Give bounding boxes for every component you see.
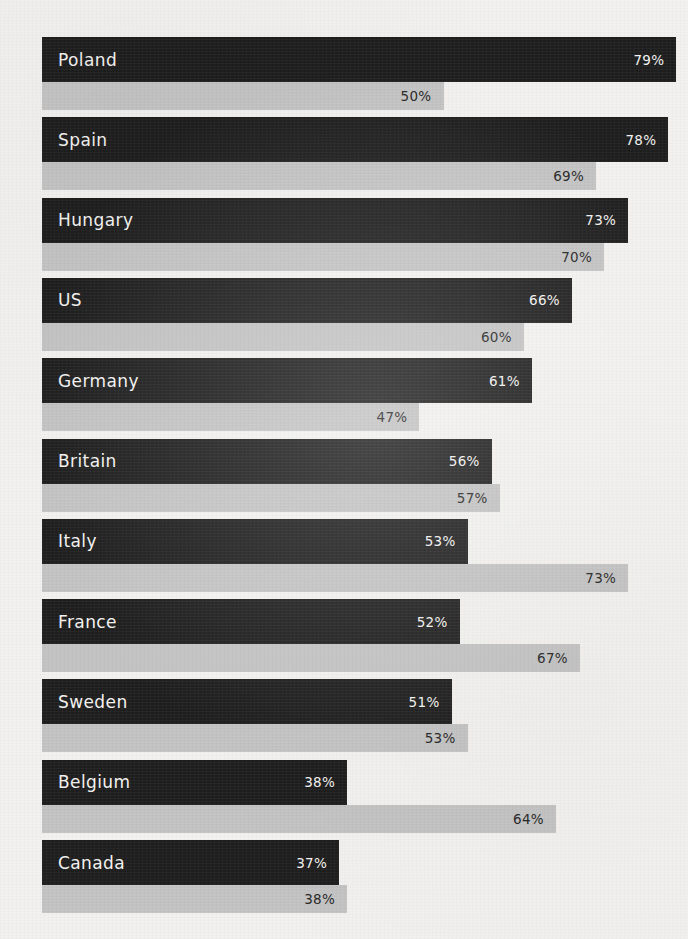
secondary-bar-value: 67% [537, 650, 568, 666]
secondary-bar: 53% [42, 724, 468, 752]
primary-bar-value: 78% [625, 132, 656, 148]
country-label: Germany [58, 371, 139, 391]
country-label: Canada [58, 853, 125, 873]
secondary-bar-value: 38% [304, 891, 335, 907]
secondary-bar-value: 53% [425, 730, 456, 746]
country-label: Poland [58, 50, 117, 70]
secondary-bar-value: 50% [401, 88, 432, 104]
country-label: Hungary [58, 210, 133, 230]
primary-bar: Italy53% [42, 519, 468, 564]
primary-bar: Britain56% [42, 439, 492, 484]
secondary-bar: 64% [42, 805, 556, 833]
bar-chart: Poland79%50%Spain78%69%Hungary73%70%US66… [0, 0, 688, 939]
secondary-bar-value: 69% [553, 168, 584, 184]
primary-bar: Germany61% [42, 358, 532, 403]
primary-bar-value: 52% [417, 614, 448, 630]
secondary-bar-value: 70% [561, 249, 592, 265]
primary-bar: France52% [42, 599, 460, 644]
primary-bar-value: 61% [489, 373, 520, 389]
secondary-bar: 57% [42, 484, 500, 512]
primary-bar: Canada37% [42, 840, 339, 885]
secondary-bar: 47% [42, 403, 419, 431]
secondary-bar-value: 73% [585, 570, 616, 586]
country-label: France [58, 612, 117, 632]
country-label: Spain [58, 130, 108, 150]
primary-bar-value: 51% [409, 694, 440, 710]
country-label: US [58, 290, 82, 310]
secondary-bar-value: 57% [457, 490, 488, 506]
country-label: Britain [58, 451, 117, 471]
secondary-bar-value: 60% [481, 329, 512, 345]
primary-bar: Poland79% [42, 37, 676, 82]
primary-bar-value: 37% [296, 855, 327, 871]
primary-bar: Belgium38% [42, 760, 347, 805]
primary-bar-value: 73% [585, 212, 616, 228]
secondary-bar: 60% [42, 323, 524, 351]
secondary-bar-value: 64% [513, 811, 544, 827]
country-label: Belgium [58, 772, 131, 792]
primary-bar: Spain78% [42, 117, 668, 162]
primary-bar: US66% [42, 278, 572, 323]
secondary-bar: 50% [42, 82, 444, 110]
secondary-bar: 67% [42, 644, 580, 672]
secondary-bar: 69% [42, 162, 596, 190]
primary-bar: Sweden51% [42, 679, 452, 724]
primary-bar-value: 56% [449, 453, 480, 469]
primary-bar-value: 53% [425, 533, 456, 549]
country-label: Sweden [58, 692, 128, 712]
secondary-bar: 73% [42, 564, 628, 592]
primary-bar: Hungary73% [42, 198, 628, 243]
secondary-bar: 38% [42, 885, 347, 913]
secondary-bar-value: 47% [377, 409, 408, 425]
primary-bar-value: 66% [529, 292, 560, 308]
primary-bar-value: 79% [633, 52, 664, 68]
primary-bar-value: 38% [304, 774, 335, 790]
country-label: Italy [58, 531, 97, 551]
secondary-bar: 70% [42, 243, 604, 271]
